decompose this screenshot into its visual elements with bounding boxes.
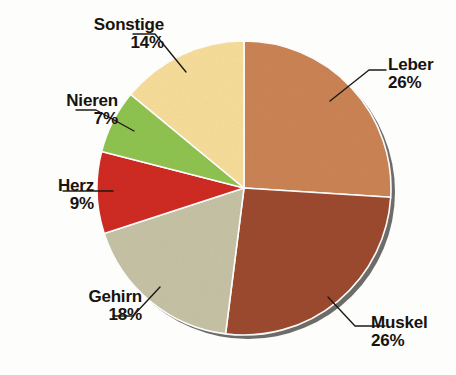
slice-label-herz-name: Herz <box>10 177 94 195</box>
slice-label-sonstige: Sonstige 14% <box>56 16 164 52</box>
slice-label-herz: Herz 9% <box>10 177 94 213</box>
slice-label-nieren-value: 7% <box>14 110 118 128</box>
slice-label-muskel: Muskel 26% <box>371 314 453 350</box>
slice-label-nieren-name: Nieren <box>14 92 118 110</box>
slice-label-sonstige-name: Sonstige <box>56 16 164 34</box>
slice-label-muskel-name: Muskel <box>371 314 453 332</box>
slice-label-gehirn: Gehirn 18% <box>38 288 142 324</box>
slice-label-gehirn-name: Gehirn <box>38 288 142 306</box>
pie-slice-muskel[interactable] <box>226 188 391 335</box>
slice-label-leber-value: 26% <box>388 74 454 92</box>
pie-slice-leber[interactable] <box>244 41 391 197</box>
slice-label-leber: Leber 26% <box>388 56 454 92</box>
slice-label-nieren: Nieren 7% <box>14 92 118 128</box>
slice-label-sonstige-value: 14% <box>56 34 164 52</box>
slice-label-gehirn-value: 18% <box>38 306 142 324</box>
slice-label-muskel-value: 26% <box>371 332 453 350</box>
slice-label-herz-value: 9% <box>10 195 94 213</box>
slice-label-leber-name: Leber <box>388 56 454 74</box>
pie-chart-figure: Sonstige 14% Nieren 7% Herz 9% Gehirn 18… <box>0 0 456 375</box>
